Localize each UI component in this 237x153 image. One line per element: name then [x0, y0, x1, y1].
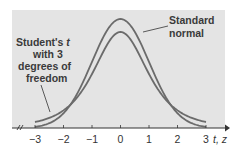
x-tick-label: −2 — [58, 133, 70, 145]
t-label-line2: with 3 — [32, 48, 63, 60]
x-tick-label: 1 — [146, 133, 152, 145]
x-axis-arrow-icon — [225, 125, 230, 132]
x-tick-label: 0 — [118, 133, 124, 145]
t-label-line1: Student's t — [16, 36, 70, 48]
x-tick-label: 3 — [203, 133, 209, 145]
x-tick-label: 2 — [175, 133, 181, 145]
x-axis-label: t, z — [213, 133, 228, 145]
t-label-text: Student's — [16, 36, 66, 48]
x-tick-label: −3 — [29, 133, 41, 145]
t-vs-normal-chart: −3−2−10123 t, z Standard normal Student'… — [0, 0, 237, 153]
normal-label-line2: normal — [169, 27, 204, 39]
normal-label-line1: Standard — [169, 14, 215, 26]
t-label-line4: freedom — [26, 72, 67, 84]
x-tick-label: −1 — [86, 133, 98, 145]
t-label-line3: degrees of — [18, 60, 72, 72]
t-label-var: t — [66, 36, 70, 48]
